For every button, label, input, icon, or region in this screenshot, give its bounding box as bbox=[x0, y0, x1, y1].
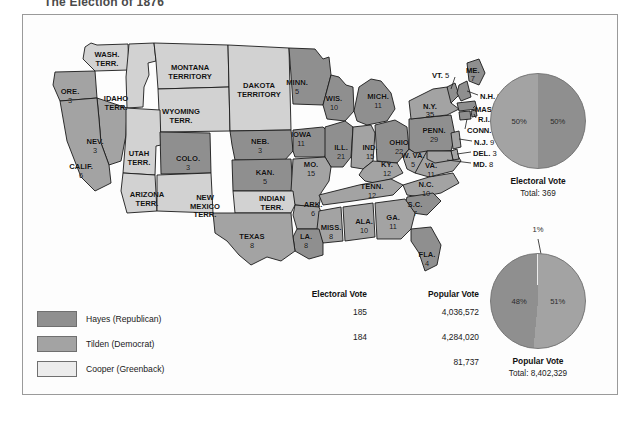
state-shape[interactable] bbox=[228, 45, 291, 131]
state-shape[interactable] bbox=[160, 132, 211, 174]
header-electoral-vote: Electoral Vote bbox=[281, 289, 367, 299]
state-shape[interactable] bbox=[375, 199, 415, 239]
state-shape[interactable] bbox=[457, 81, 471, 101]
legend-label: Cooper (Greenback) bbox=[86, 364, 164, 374]
callout-leader-line bbox=[457, 152, 471, 154]
electoral-vote-pie-block: 50% 50% Electoral Vote Total: 369 bbox=[473, 73, 603, 198]
table-row: 81,737 bbox=[281, 349, 496, 374]
state-shape[interactable] bbox=[230, 130, 293, 161]
state-shape[interactable] bbox=[233, 191, 295, 213]
state-shape[interactable] bbox=[325, 121, 353, 167]
state-shape[interactable] bbox=[459, 111, 471, 120]
table-row: 1854,036,572 bbox=[281, 299, 496, 324]
callout-leader-line bbox=[459, 139, 472, 141]
state-shape[interactable] bbox=[451, 131, 461, 149]
header-popular-vote: Popular Vote bbox=[367, 289, 479, 299]
legend-swatch bbox=[37, 336, 77, 352]
electoral-vote-total: Total: 369 bbox=[473, 189, 603, 198]
state-shape[interactable] bbox=[293, 127, 329, 157]
state-shape[interactable] bbox=[411, 227, 441, 271]
figure-frame: WASH.TERR.ORE.3IDAHOTERR.MONTANATERRITOR… bbox=[22, 14, 618, 395]
state-shape[interactable] bbox=[158, 87, 230, 132]
state-shape[interactable] bbox=[354, 79, 395, 125]
state-shape[interactable] bbox=[232, 159, 293, 191]
state-shape[interactable] bbox=[289, 48, 331, 105]
map-state-shapes bbox=[23, 15, 493, 287]
state-shape[interactable] bbox=[123, 108, 161, 175]
electoral-right-percent: 50% bbox=[550, 117, 565, 126]
legend-swatch bbox=[37, 361, 77, 377]
state-shape[interactable] bbox=[83, 43, 129, 71]
electoral-left-percent: 50% bbox=[512, 117, 527, 126]
legend-label: Tilden (Democrat) bbox=[86, 339, 154, 349]
cell-popular-vote: 4,036,572 bbox=[367, 307, 479, 317]
cell-electoral-vote: 184 bbox=[281, 332, 367, 342]
state-shape[interactable] bbox=[293, 229, 323, 259]
state-shape[interactable] bbox=[213, 213, 295, 265]
state-callout-label: N.Y.35 bbox=[423, 103, 437, 118]
state-shape[interactable] bbox=[154, 43, 229, 89]
state-shape[interactable] bbox=[343, 203, 375, 241]
popular-sliver-percent: 1% bbox=[533, 225, 544, 234]
election-map: WASH.TERR.ORE.3IDAHOTERR.MONTANATERRITOR… bbox=[23, 15, 493, 287]
popular-vote-pie: 48% 51% bbox=[490, 253, 586, 349]
legend-swatch bbox=[37, 311, 77, 327]
page-title: The Election of 1876 bbox=[44, 0, 164, 9]
popular-right-percent: 51% bbox=[550, 297, 565, 306]
state-shape[interactable] bbox=[126, 43, 156, 108]
state-shape[interactable] bbox=[157, 173, 213, 213]
table-row: 1844,284,020 bbox=[281, 324, 496, 349]
popular-left-percent: 48% bbox=[512, 297, 527, 306]
results-table: Electoral Vote Popular Vote 1854,036,572… bbox=[281, 289, 496, 374]
cell-electoral-vote: 185 bbox=[281, 307, 367, 317]
electoral-vote-caption: Electoral Vote bbox=[473, 176, 603, 186]
electoral-vote-pie: 50% 50% bbox=[490, 73, 586, 169]
legend-label: Hayes (Republican) bbox=[86, 314, 161, 324]
table-header-row: Electoral Vote Popular Vote bbox=[281, 289, 496, 299]
cell-popular-vote: 4,284,020 bbox=[367, 332, 479, 342]
cell-popular-vote: 81,737 bbox=[367, 357, 479, 367]
state-shape[interactable] bbox=[409, 115, 455, 153]
state-shape[interactable] bbox=[121, 173, 157, 213]
state-shape[interactable] bbox=[53, 71, 97, 101]
state-callout-label: VT. 5 bbox=[432, 72, 449, 80]
